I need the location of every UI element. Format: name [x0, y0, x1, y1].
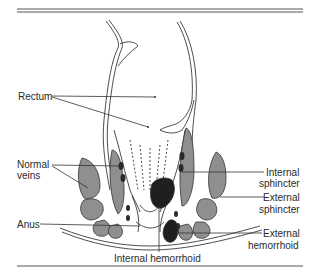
- label-external-hemorrhoid-line1: External: [263, 228, 300, 239]
- leader-rectum-2: [52, 97, 148, 127]
- hemorrhoid-diagram: Rectum Normal veins Anus Internal sphinc…: [0, 0, 320, 277]
- muscle-lobe-left-upper: [78, 158, 100, 199]
- muscle-lobe-left-low: [93, 220, 110, 236]
- muscle-lobe-right-upper: [209, 152, 226, 198]
- label-anus: Anus: [17, 219, 40, 230]
- label-internal-sphincter-line1: Internal: [266, 167, 299, 178]
- muscle-lobe-right-low: [193, 222, 210, 238]
- label-internal-sphincter-line2: sphincter: [259, 178, 300, 189]
- label-normal-veins-line2: veins: [17, 170, 40, 181]
- leader-rectum-1: [52, 96, 155, 97]
- internal-hemorrhoid: [150, 178, 174, 208]
- label-internal-hemorrhoid: Internal hemorrhoid: [114, 253, 201, 264]
- label-external-hemorrhoid-line2: hemorrhoid: [248, 240, 299, 251]
- leader-anus: [40, 224, 140, 226]
- label-rectum: Rectum: [18, 91, 52, 102]
- label-external-sphincter-line1: External: [263, 192, 300, 203]
- label-normal-veins-line1: Normal: [17, 159, 49, 170]
- external-hemorrhoid: [163, 220, 178, 242]
- muscle-lobe-left-mid: [81, 199, 104, 220]
- muscle-lobe-right-mid: [197, 199, 217, 220]
- leader-dots: [147, 96, 156, 128]
- label-external-sphincter-line2: sphincter: [259, 204, 300, 215]
- muscle-lobe-left-inner: [108, 224, 122, 238]
- muscle-lobe-right-inner: [178, 224, 192, 240]
